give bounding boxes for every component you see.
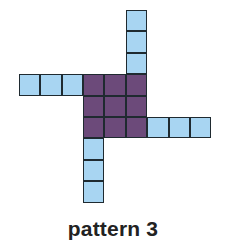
bottom-arm-cell [83, 181, 104, 202]
right-arm-cell [190, 117, 211, 138]
bottom-arm-cell [83, 160, 104, 181]
right-arm-cell [169, 117, 190, 138]
top-arm-cell [126, 31, 147, 52]
center-square-cell [126, 96, 147, 117]
left-arm-cell [40, 74, 61, 95]
center-square-cell [104, 117, 125, 138]
top-arm-cell [126, 53, 147, 74]
center-square-cell [104, 96, 125, 117]
bottom-arm-cell [83, 138, 104, 159]
center-square-cell [104, 74, 125, 95]
center-square-cell [83, 96, 104, 117]
top-arm-cell [126, 10, 147, 31]
center-square-cell [126, 117, 147, 138]
center-square-cell [126, 74, 147, 95]
center-square-cell [83, 117, 104, 138]
left-arm-cell [62, 74, 83, 95]
left-arm-cell [19, 74, 40, 95]
center-square-cell [83, 74, 104, 95]
right-arm-cell [147, 117, 168, 138]
figure-caption: pattern 3 [0, 217, 226, 241]
